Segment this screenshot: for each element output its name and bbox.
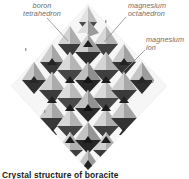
label-boron-tetrahedron: boron tetrahedron: [16, 2, 68, 18]
crystal-lattice-illustration: [0, 0, 189, 179]
crystal-structure-figure: boron tetrahedron magnesium octahedron m…: [0, 0, 189, 179]
crystal-lattice-svg: [0, 0, 189, 179]
figure-caption: Crystal structure of boracite: [2, 170, 187, 179]
label-magnesium-octahedron: magnesium octahedron: [128, 2, 188, 18]
label-magnesium-ion: magnesium ion: [146, 36, 189, 52]
